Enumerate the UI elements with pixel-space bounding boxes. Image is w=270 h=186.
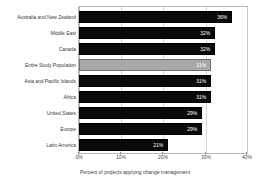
bar-value-label: 31% — [196, 79, 210, 84]
category-label: Europe — [2, 127, 76, 132]
x-tick-label: 30% — [201, 155, 211, 160]
x-tick-label: 20% — [158, 155, 168, 160]
x-axis-title: Percent of projects applying change mana… — [0, 170, 270, 175]
category-label: Entire Study Population — [2, 63, 76, 68]
bar-row: 32% — [79, 43, 215, 55]
bar: 31% — [79, 91, 211, 103]
bar-value-label: 29% — [187, 111, 201, 116]
bar-value-label: 36% — [217, 15, 231, 20]
bar-value-label: 32% — [200, 47, 214, 52]
bar-row: 31% — [79, 75, 211, 87]
bar-row: 29% — [79, 107, 202, 119]
bar-row: 32% — [79, 27, 215, 39]
x-tick-mark — [205, 152, 206, 155]
bar-row: 36% — [79, 11, 232, 23]
plot-area: 36% 32% 32% 31% 31% — [78, 6, 248, 154]
bar-row: 21% — [79, 139, 168, 151]
bar-row-highlight: 31% — [79, 59, 211, 71]
category-label: Africa — [2, 95, 76, 100]
bar-row: 31% — [79, 91, 211, 103]
bar-value-label: 31% — [196, 63, 210, 68]
bar-highlight: 31% — [79, 59, 211, 71]
category-axis-labels: Australia and New Zealand Middle East Ca… — [0, 6, 76, 154]
category-label: United States — [2, 111, 76, 116]
category-label: Latin America — [2, 143, 76, 148]
bar: 32% — [79, 27, 215, 39]
bar: 36% — [79, 11, 232, 23]
bar-chart: Australia and New Zealand Middle East Ca… — [0, 0, 270, 186]
bar-row: 29% — [79, 123, 202, 135]
category-label: Australia and New Zealand — [2, 15, 76, 20]
bar: 29% — [79, 107, 202, 119]
category-label: Middle East — [2, 31, 76, 36]
bar: 31% — [79, 75, 211, 87]
x-axis-ticks: 0% 10% 20% 30% 40% — [78, 155, 248, 165]
bar-value-label: 29% — [187, 127, 201, 132]
bar-value-label: 21% — [153, 143, 167, 148]
category-label: Canada — [2, 47, 76, 52]
bar-value-label: 31% — [196, 95, 210, 100]
category-label: Asia and Pacific Islands — [2, 79, 76, 84]
x-tick-mark — [162, 152, 163, 155]
x-tick-label: 40% — [242, 155, 252, 160]
bar: 29% — [79, 123, 202, 135]
bar-series: 36% 32% 32% 31% 31% — [79, 7, 247, 153]
x-tick-mark — [78, 152, 79, 155]
bar: 32% — [79, 43, 215, 55]
bar-value-label: 32% — [200, 31, 214, 36]
bar: 21% — [79, 139, 168, 151]
x-tick-mark — [246, 152, 247, 155]
x-tick-mark — [120, 152, 121, 155]
x-tick-label: 10% — [116, 155, 126, 160]
x-tick-label: 0% — [75, 155, 82, 160]
